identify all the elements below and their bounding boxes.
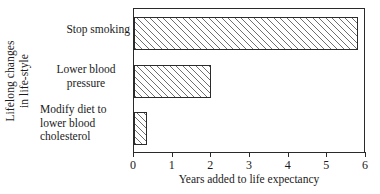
plot-frame <box>133 8 365 153</box>
x-tick-2 <box>210 152 211 157</box>
x-tick-label-3: 3 <box>239 158 259 172</box>
plot-area <box>134 9 364 152</box>
x-tick-0 <box>133 152 134 157</box>
category-label-lower-blood-pressure: Lower blood pressure <box>42 63 130 90</box>
x-tick-label-0: 0 <box>123 158 143 172</box>
x-tick-label-2: 2 <box>200 158 220 172</box>
y-axis-label-line1: Lifelong changes <box>4 40 16 121</box>
x-tick-1 <box>172 152 173 157</box>
y-axis-label: Lifelong changes in life-style <box>0 8 34 153</box>
y-axis-label-line2: in life-style <box>17 40 31 121</box>
x-tick-label-6: 6 <box>355 158 375 172</box>
x-tick-4 <box>288 152 289 157</box>
x-tick-3 <box>249 152 250 157</box>
x-tick-label-4: 4 <box>278 158 298 172</box>
category-label-modify-diet: Modify diet to lower blood cholesterol <box>40 103 130 144</box>
x-tick-6 <box>365 152 366 157</box>
x-tick-label-5: 5 <box>316 158 336 172</box>
x-axis-label: Years added to life expectancy <box>133 172 365 186</box>
y-axis-label-text: Lifelong changes in life-style <box>4 40 31 121</box>
chart-screenshot: Lifelong changes in life-style Stop smok… <box>0 0 380 194</box>
bar-lower-blood-pressure <box>134 65 211 98</box>
category-label-stop-smoking: Stop smoking <box>42 23 130 37</box>
bar-modify-diet <box>134 112 147 145</box>
x-tick-label-1: 1 <box>162 158 182 172</box>
x-tick-5 <box>326 152 327 157</box>
bar-stop-smoking <box>134 17 358 50</box>
